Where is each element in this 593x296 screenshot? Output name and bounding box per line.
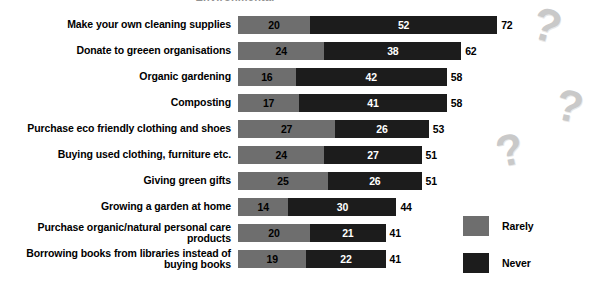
category-label: Composting xyxy=(0,97,238,109)
bar-segment-rarely: 20 xyxy=(238,224,310,242)
bar-total-value: 44 xyxy=(400,202,411,213)
bar-segment-never: 26 xyxy=(328,172,422,190)
bar-segment-value: 26 xyxy=(369,176,380,187)
stacked-bar: 1430 xyxy=(238,198,396,216)
bar-segment-rarely: 24 xyxy=(238,146,324,164)
bar-segment-rarely: 16 xyxy=(238,68,296,86)
bar-segment-rarely: 27 xyxy=(238,120,335,138)
bar-total-value: 58 xyxy=(451,98,462,109)
chart-row: Donate to greeen organisations243862 xyxy=(0,38,593,64)
bar-segment-value: 14 xyxy=(258,202,269,213)
bar-segment-never: 38 xyxy=(324,42,461,60)
bar-segment-rarely: 19 xyxy=(238,250,306,268)
legend-item-rarely: Rarely xyxy=(463,216,534,236)
bar-segment-never: 27 xyxy=(324,146,421,164)
legend-item-never: Never xyxy=(463,253,534,273)
chart-title: Environmental xyxy=(0,0,470,3)
category-label: Borrowing books from libraries instead o… xyxy=(0,248,238,271)
chart-legend: Rarely Never xyxy=(463,216,534,290)
bar-segment-value: 17 xyxy=(263,98,274,109)
stacked-bar: 1922 xyxy=(238,250,386,268)
bar-segment-value: 22 xyxy=(340,254,351,265)
chart-row: Composting174158 xyxy=(0,90,593,116)
category-label: Organic gardening xyxy=(0,71,238,83)
legend-label-never: Never xyxy=(502,257,531,269)
bar-segment-value: 25 xyxy=(277,176,288,187)
legend-swatch-rarely-icon xyxy=(463,216,489,236)
category-label: Purchase organic/natural personal care p… xyxy=(0,222,238,245)
category-label: Growing a garden at home xyxy=(0,201,238,213)
stacked-bar-chart: Environmental Make your own cleaning sup… xyxy=(0,0,593,296)
bar-segment-rarely: 24 xyxy=(238,42,324,60)
stacked-bar: 2021 xyxy=(238,224,386,242)
category-label: Giving green gifts xyxy=(0,175,238,187)
bar-segment-never: 41 xyxy=(299,94,447,112)
stacked-bar: 1741 xyxy=(238,94,447,112)
bar-segment-rarely: 14 xyxy=(238,198,288,216)
bar-segment-value: 24 xyxy=(276,46,287,57)
bar-segment-never: 21 xyxy=(310,224,386,242)
bar-segment-value: 16 xyxy=(261,72,272,83)
bar-segment-value: 52 xyxy=(398,20,409,31)
bar-segment-never: 52 xyxy=(310,16,497,34)
category-label: Make your own cleaning supplies xyxy=(0,19,238,31)
category-label: Donate to greeen organisations xyxy=(0,45,238,57)
bar-segment-value: 24 xyxy=(276,150,287,161)
bar-total-value: 72 xyxy=(501,20,512,31)
legend-swatch-never-icon xyxy=(463,253,489,273)
bar-total-value: 41 xyxy=(390,228,401,239)
bar-segment-value: 21 xyxy=(342,228,353,239)
bar-segment-never: 22 xyxy=(306,250,385,268)
category-label: Buying used clothing, furniture etc. xyxy=(0,149,238,161)
stacked-bar: 2726 xyxy=(238,120,429,138)
bar-total-value: 51 xyxy=(426,176,437,187)
bar-total-value: 62 xyxy=(465,46,476,57)
bar-segment-value: 27 xyxy=(367,150,378,161)
stacked-bar: 2052 xyxy=(238,16,497,34)
stacked-bar: 2438 xyxy=(238,42,461,60)
bar-segment-value: 42 xyxy=(366,72,377,83)
bar-segment-value: 30 xyxy=(337,202,348,213)
bar-total-value: 53 xyxy=(433,124,444,135)
bar-segment-rarely: 25 xyxy=(238,172,328,190)
chart-row: Organic gardening164258 xyxy=(0,64,593,90)
bar-segment-value: 20 xyxy=(268,228,279,239)
chart-row: Make your own cleaning supplies205272 xyxy=(0,12,593,38)
bar-segment-never: 30 xyxy=(288,198,396,216)
bar-segment-rarely: 17 xyxy=(238,94,299,112)
bar-segment-value: 20 xyxy=(268,20,279,31)
stacked-bar: 1642 xyxy=(238,68,447,86)
bar-segment-never: 26 xyxy=(335,120,429,138)
bar-segment-value: 26 xyxy=(376,124,387,135)
bar-total-value: 58 xyxy=(451,72,462,83)
category-label: Purchase eco friendly clothing and shoes xyxy=(0,123,238,135)
bar-segment-never: 42 xyxy=(296,68,447,86)
bar-total-value: 41 xyxy=(390,254,401,265)
stacked-bar: 2427 xyxy=(238,146,422,164)
legend-label-rarely: Rarely xyxy=(502,220,534,232)
bar-segment-value: 38 xyxy=(387,46,398,57)
bar-segment-value: 19 xyxy=(267,254,278,265)
bar-segment-rarely: 20 xyxy=(238,16,310,34)
bar-segment-value: 41 xyxy=(367,98,378,109)
bar-total-value: 51 xyxy=(426,150,437,161)
stacked-bar: 2526 xyxy=(238,172,422,190)
bar-segment-value: 27 xyxy=(281,124,292,135)
